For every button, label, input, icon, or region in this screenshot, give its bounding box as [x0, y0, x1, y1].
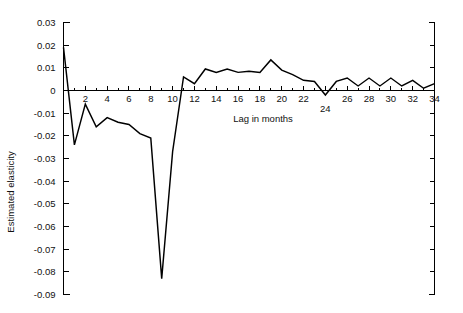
- y-tick-label: -0.03: [34, 153, 56, 164]
- y-tick-label: -0.08: [34, 266, 56, 277]
- y-tick-label: -0.07: [34, 244, 56, 255]
- x-tick-label: 8: [148, 93, 153, 104]
- y-tick-label: 0.01: [37, 62, 56, 73]
- x-axis-title: Lag in months: [233, 113, 293, 124]
- y-tick-label: -0.06: [34, 221, 56, 232]
- y-tick-label: 0: [50, 85, 55, 96]
- x-tick-label: 12: [189, 93, 200, 104]
- y-tick-label: -0.09: [34, 289, 56, 300]
- chart-figure: 0.030.020.010-0.01-0.02-0.03-0.04-0.05-0…: [0, 0, 463, 313]
- x-tick-label: 16: [233, 93, 244, 104]
- y-tick-label: 0.02: [37, 40, 56, 51]
- y-tick-label: -0.04: [34, 176, 56, 187]
- y-tick-label: 0.03: [37, 17, 56, 28]
- x-tick-label: 22: [298, 93, 309, 104]
- x-tick-label: 24: [320, 103, 331, 114]
- elasticity-line-chart: 0.030.020.010-0.01-0.02-0.03-0.04-0.05-0…: [0, 0, 463, 313]
- x-tick-label: 32: [407, 93, 418, 104]
- x-tick-label: 28: [364, 93, 375, 104]
- y-tick-label: -0.05: [34, 198, 56, 209]
- x-tick-label: 14: [211, 93, 222, 104]
- x-tick-label: 10: [167, 93, 178, 104]
- x-tick-label: 34: [429, 93, 440, 104]
- x-tick-label: 2: [83, 93, 88, 104]
- x-tick-label: 18: [255, 93, 266, 104]
- y-axis-title: Estimated elasticity: [5, 151, 16, 233]
- x-tick-label: 20: [276, 93, 287, 104]
- x-tick-label: 26: [342, 93, 353, 104]
- y-tick-label: -0.02: [34, 130, 56, 141]
- x-tick-label: 4: [104, 93, 109, 104]
- x-tick-label: 30: [386, 93, 397, 104]
- x-tick-label: 6: [126, 93, 131, 104]
- y-tick-label: -0.01: [34, 108, 56, 119]
- chart-background: [0, 0, 463, 313]
